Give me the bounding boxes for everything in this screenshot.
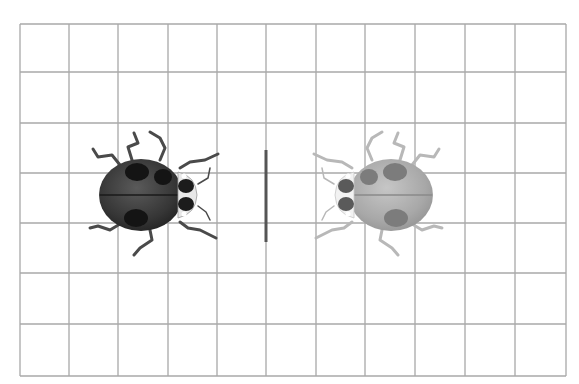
ladybug-spot — [360, 169, 378, 185]
ladybug-spot — [154, 169, 172, 185]
ladybug-spot — [384, 209, 408, 227]
diagram-canvas — [0, 0, 579, 384]
ladybug-pronotum — [178, 172, 197, 218]
ladybug-spot — [125, 163, 149, 181]
ladybug-head — [338, 197, 354, 211]
ladybug-reflection — [314, 132, 442, 255]
ladybug-original — [90, 132, 218, 255]
ladybug-head — [178, 197, 194, 211]
ladybug-head — [178, 179, 194, 193]
ladybug-spot — [383, 163, 407, 181]
mirror-diagram — [0, 0, 579, 384]
ladybug-pronotum — [335, 172, 354, 218]
ladybug-spot — [124, 209, 148, 227]
ladybug-head — [338, 179, 354, 193]
